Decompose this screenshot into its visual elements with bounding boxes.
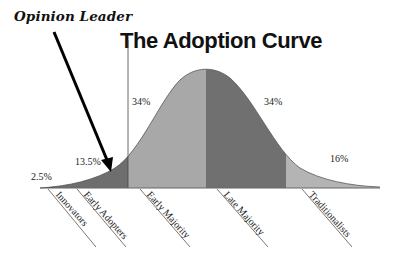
segment-early-majority (128, 40, 206, 188)
segment-innovators (40, 40, 53, 188)
percent-early-adopters: 13.5% (75, 156, 101, 167)
segment-late-majority (206, 40, 286, 188)
percent-late-majority: 34% (264, 96, 282, 107)
percent-innovators: 2.5% (31, 171, 52, 182)
opinion-leader-arrow-icon (54, 32, 113, 172)
segment-traditionalists (286, 40, 380, 188)
percent-early-majority: 34% (132, 96, 150, 107)
percent-traditionalists: 16% (330, 153, 348, 164)
